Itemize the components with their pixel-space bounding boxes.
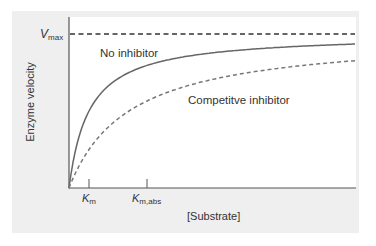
competitive-inhibitor-curve [69,61,355,188]
km-label: Km [82,192,96,206]
x-axis-label: [Substrate] [187,210,240,222]
no-inhibitor-curve [69,44,355,188]
y-axis-label: Enzyme velocity [24,62,36,141]
competitive-inhibitor-label: Competitve inhibitor [188,94,290,106]
vmax-label: Vmax [40,27,63,42]
no-inhibitor-label: No inhibitor [100,47,158,59]
kmabs-label: Km,abs [132,192,161,206]
